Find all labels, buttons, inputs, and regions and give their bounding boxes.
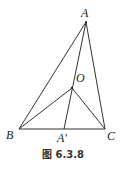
point-o-dot [71,87,73,89]
label-c: C [107,129,116,143]
point-a-dot [85,21,87,23]
label-a: A [80,6,89,20]
geometry-diagram: A B C O A' 图 6.3.8 [0,0,125,169]
segment-ac [86,22,105,129]
label-a-prime: A' [56,131,67,145]
figure-caption: 图 6.3.8 [42,149,84,160]
label-b: B [6,128,14,142]
label-o: O [76,71,85,85]
segment-ob [19,88,72,129]
segment-oc [72,88,105,129]
